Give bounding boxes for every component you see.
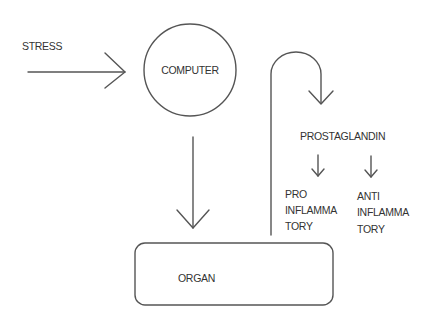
computer-to-organ-arrow xyxy=(177,137,209,228)
pro-inflammatory-line-2: INFLAMMA xyxy=(285,204,337,216)
prostaglandin-to-anti-arrow xyxy=(365,156,377,177)
anti-inflammatory-line-3: TORY xyxy=(357,223,385,235)
anti-inflammatory-line-1: ANTI xyxy=(357,190,380,202)
computer-node: COMPUTER xyxy=(144,24,236,116)
pro-inflammatory-node: PRO INFLAMMA TORY xyxy=(285,188,337,232)
pro-inflammatory-line-1: PRO xyxy=(285,188,307,200)
computer-label: COMPUTER xyxy=(161,64,219,76)
organ-node: ORGAN xyxy=(135,243,333,305)
anti-inflammatory-node: ANTI INFLAMMA TORY xyxy=(357,190,409,235)
prostaglandin-label: PROSTAGLANDIN xyxy=(300,130,385,142)
prostaglandin-to-pro-arrow xyxy=(312,155,324,176)
pro-inflammatory-line-3: TORY xyxy=(285,220,313,232)
organ-label: ORGAN xyxy=(178,272,215,284)
diagram-canvas: STRESS COMPUTER ORGAN PROSTAGLANDIN PRO … xyxy=(0,0,434,323)
anti-inflammatory-line-2: INFLAMMA xyxy=(357,206,409,218)
stress-label: STRESS xyxy=(22,40,63,52)
stress-to-computer-arrow xyxy=(28,53,125,88)
